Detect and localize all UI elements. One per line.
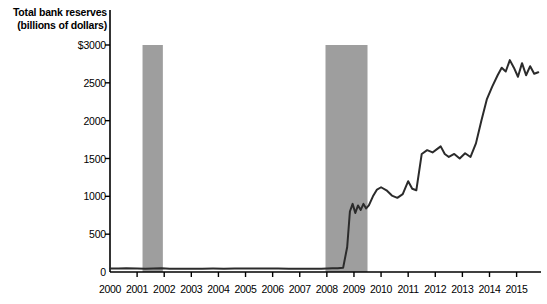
y-tick-label-wrap: 2500 bbox=[54, 78, 106, 88]
y-tick-label: 500 bbox=[58, 229, 106, 239]
y-tick-label: 0 bbox=[58, 267, 106, 277]
y-tick-label: 2000 bbox=[58, 116, 106, 126]
bank-reserves-chart: Total bank reserves (billions of dollars… bbox=[0, 0, 547, 304]
y-tick-label-wrap: 2000 bbox=[54, 116, 106, 126]
recession-band-2 bbox=[326, 45, 368, 272]
y-tick-label-wrap: $3000 bbox=[54, 40, 106, 50]
y-tick-label: 1000 bbox=[58, 191, 106, 201]
y-tick-label: 1500 bbox=[58, 154, 106, 164]
y-tick-label-wrap: 500 bbox=[54, 229, 106, 239]
y-tick-label: 2500 bbox=[58, 78, 106, 88]
recession-band-1 bbox=[143, 45, 163, 272]
y-tick-label: $3000 bbox=[58, 40, 106, 50]
y-tick-label-wrap: 1500 bbox=[54, 154, 106, 164]
y-tick-label-wrap: 0 bbox=[54, 267, 106, 277]
reserves-line bbox=[110, 60, 538, 269]
y-tick-label-wrap: 1000 bbox=[54, 191, 106, 201]
recession-bands bbox=[143, 45, 368, 272]
x-tick-label: 2015 bbox=[497, 284, 537, 295]
